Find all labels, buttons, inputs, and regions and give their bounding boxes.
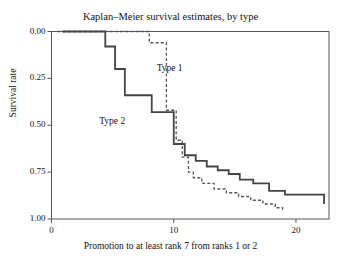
axis-ticks bbox=[48, 32, 296, 224]
kaplan-meier-figure: Kaplan–Meier survival estimates, by type… bbox=[0, 0, 341, 263]
survival-curve-type-1 bbox=[58, 32, 283, 210]
axes-frame bbox=[52, 32, 330, 220]
survival-plot bbox=[0, 0, 341, 263]
